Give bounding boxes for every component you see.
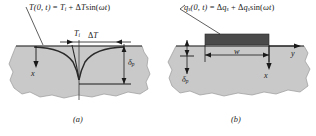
eq-a-plus: + (69, 3, 74, 12)
penetration-depth-label: δp (182, 76, 189, 85)
panel-a-boundary-condition-equation: T(0, t) = Ti + ΔTsin(ωt) (29, 4, 110, 13)
eq-b-args: (0, t) (191, 3, 208, 12)
panel-b-y-axis-label: y (291, 50, 295, 58)
panel-b-x-axis-label: x (264, 72, 268, 80)
panel-b-caption: (b) (231, 116, 241, 124)
panel-a: T(0, t) = Ti + ΔTsin(ωt) Ti ΔT δp x (a) (0, 0, 158, 136)
panel-a-caption: (a) (73, 116, 83, 124)
eq-b-sin: sin( (250, 3, 263, 12)
panel-a-x-axis-label: x (31, 70, 35, 78)
depth-arrowhead-top (185, 40, 190, 46)
eq-a-close: ) (107, 3, 110, 12)
penetration-depth-sub: p (132, 61, 135, 67)
surface-temperature-label: Ti (74, 30, 80, 39)
eq-b-close: ) (271, 3, 274, 12)
panel-b: qs(0, t) = Δqs + Δqssin(ωt) w δp x y (b) (158, 0, 316, 136)
strip-heater (205, 34, 269, 45)
figure-container: T(0, t) = Ti + ΔTsin(ωt) Ti ΔT δp x (a) (0, 0, 316, 136)
eq-a-sin: sin( (86, 3, 99, 12)
eq-a-equals: = (53, 3, 58, 12)
amplitude-label: ΔT (88, 32, 98, 40)
eq-b-equals: = (210, 3, 215, 12)
penetration-depth-label: δp (128, 59, 135, 68)
eq-b-plus: + (231, 3, 236, 12)
amplitude-arrowhead-left (67, 40, 73, 45)
eq-a-args: (0, t) (34, 3, 51, 12)
panel-b-boundary-condition-equation: qs(0, t) = Δqs + Δqssin(ωt) (184, 4, 274, 13)
amplitude-arrowhead-right (116, 40, 122, 45)
eq-b-term1-sub: s (226, 6, 228, 12)
surface-temperature-sub: i (79, 32, 81, 38)
eq-a-term1-sub: i (65, 6, 67, 12)
penetration-depth-sub: p (186, 78, 189, 84)
heater-width-label: w (234, 48, 239, 56)
